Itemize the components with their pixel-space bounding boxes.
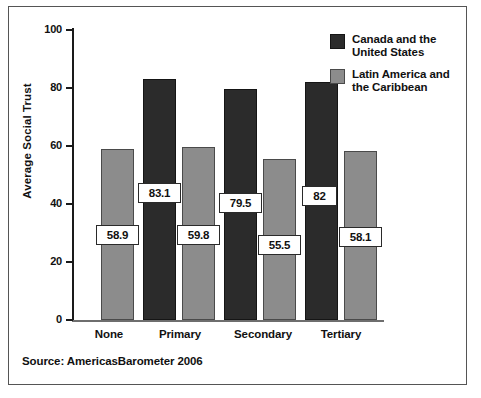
legend-label-canada-us-line2: United States xyxy=(352,46,424,58)
bar-label-secondary-latin-america: 55.5 xyxy=(258,235,301,255)
bar-label-tertiary-canada-us: 82 xyxy=(302,186,337,206)
x-axis-line xyxy=(72,320,384,322)
source-note: Source: AmericasBarometer 2006 xyxy=(22,355,203,367)
y-tick-label-80: 80 xyxy=(50,82,62,93)
legend-label-canada-us: Canada and the United States xyxy=(352,33,436,59)
legend-item-canada-us: Canada and the United States xyxy=(330,33,460,59)
bar-label-primary-latin-america: 59.8 xyxy=(177,225,220,245)
y-axis-title: Average Social Trust xyxy=(21,61,33,221)
x-category-label-secondary: Secondary xyxy=(228,328,298,340)
x-category-label-none: None xyxy=(79,328,139,340)
chart-figure: 100 80 60 40 20 0 Average Social Trust 5… xyxy=(0,0,481,398)
x-category-label-primary: Primary xyxy=(150,328,210,340)
y-tick-label-60: 60 xyxy=(50,140,62,151)
legend-label-latin-america-line2: the Caribbean xyxy=(352,81,427,93)
bar-label-primary-canada-us: 83.1 xyxy=(138,183,181,203)
y-tick-label-40: 40 xyxy=(50,198,62,209)
y-tick-label-0: 0 xyxy=(56,314,62,325)
chart-legend: Canada and the United States Latin Ameri… xyxy=(330,33,460,103)
bar-label-secondary-canada-us: 79.5 xyxy=(219,193,262,213)
dark-swatch-icon xyxy=(330,34,345,49)
legend-label-canada-us-line1: Canada and the xyxy=(352,33,436,45)
bar-label-tertiary-latin-america: 58.1 xyxy=(339,227,382,247)
bar-label-none-latin-america: 58.9 xyxy=(96,225,139,245)
gray-swatch-icon xyxy=(330,69,345,84)
y-tick-label-20: 20 xyxy=(50,256,62,267)
legend-label-latin-america-line1: Latin America and xyxy=(352,68,450,80)
x-category-label-tertiary: Tertiary xyxy=(310,328,372,340)
legend-item-latin-america: Latin America and the Caribbean xyxy=(330,68,460,94)
y-tick-label-100: 100 xyxy=(44,24,62,35)
legend-label-latin-america: Latin America and the Caribbean xyxy=(352,68,450,94)
